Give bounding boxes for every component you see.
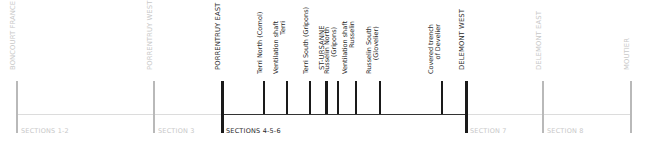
station-tick [286, 81, 288, 114]
station-tick [441, 81, 443, 114]
section-label: SECTION 7 [470, 127, 507, 135]
station-label-line: PORRENTRUY WEST [147, 1, 154, 70]
track-line-active [222, 114, 466, 115]
station-label-line: (Gripons) [331, 27, 338, 74]
section-label: SECTIONS 4-5-6 [226, 127, 281, 135]
station-label: BONCOURT FRANCE [10, 1, 17, 70]
station-tick [221, 81, 224, 133]
station-label: Russelin North(Gripons) [324, 27, 338, 74]
station-label-line: (Glovelier) [373, 26, 380, 74]
station-tick [153, 81, 155, 133]
station-label-line: Russelin [349, 21, 356, 74]
section-label: SECTIONS 1-2 [21, 127, 69, 135]
station-label-line: Terri North (Cornol) [257, 12, 264, 74]
station-label-line: DELEMONT WEST [459, 9, 466, 70]
station-label: PORRENTRUY EAST [215, 3, 222, 70]
station-tick [465, 81, 468, 133]
station-label: Terri South (Gripons) [303, 7, 310, 74]
station-label: Ventilation shaftTerri [273, 21, 287, 74]
track-line-inactive-east [466, 114, 631, 115]
track-line-inactive-west [17, 114, 222, 115]
station-label-line: of Develier [435, 24, 442, 74]
section-label: SECTION 3 [158, 127, 195, 135]
station-label: Covered trenchof Develier [428, 24, 442, 74]
station-label: MOUTIER [624, 38, 631, 70]
station-label-line: Terri South (Gripons) [303, 7, 310, 74]
station-label: Terri North (Cornol) [257, 12, 264, 74]
station-label-line: PORRENTRUY EAST [215, 3, 222, 70]
station-tick [16, 81, 18, 133]
railway-line-diagram: BONCOURT FRANCEPORRENTRUY WESTPORRENTRUY… [0, 0, 648, 145]
station-label: PORRENTRUY WEST [147, 1, 154, 70]
station-tick [337, 81, 339, 114]
station-tick [325, 81, 328, 114]
station-label-line: DELEMONT EAST [536, 11, 543, 70]
station-tick [630, 81, 632, 133]
station-label: Russelin South(Glovelier) [366, 26, 380, 74]
section-label: SECTION 8 [547, 127, 584, 135]
station-tick [263, 81, 265, 114]
station-tick [309, 81, 311, 114]
station-label-line: Terri [280, 21, 287, 74]
station-label-line: MOUTIER [624, 38, 631, 70]
station-tick [542, 81, 544, 133]
station-label-line: BONCOURT FRANCE [10, 1, 17, 70]
station-tick [355, 81, 357, 114]
station-tick [379, 81, 381, 114]
station-label: DELEMONT WEST [459, 9, 466, 70]
station-label: Ventilation shaftRusselin [342, 21, 356, 74]
station-label: DELEMONT EAST [536, 11, 543, 70]
